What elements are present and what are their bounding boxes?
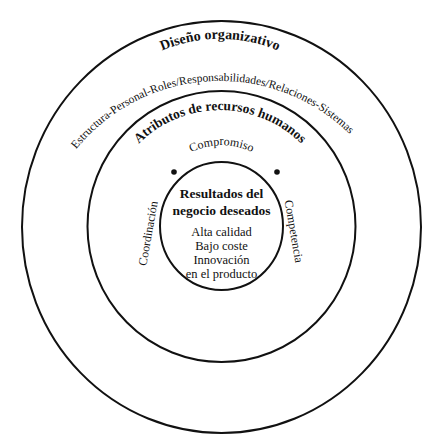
concentric-circles-diagram: Diseño organizativo Estructura-Personal-… [0, 0, 440, 447]
inner-title-line1: Resultados del [180, 186, 264, 201]
attribute-right-competencia: Competencia [282, 199, 307, 264]
inner-item: Bajo coste [195, 239, 248, 253]
outer-ring-title: Diseño organizativo [158, 27, 282, 53]
attribute-left-coordinacion: Coordinación [135, 200, 160, 267]
dot-left [171, 169, 177, 175]
attribute-top-compromiso: Compromiso [187, 134, 256, 155]
inner-item: Innovación [193, 253, 250, 267]
inner-title-line2: negocio deseados [173, 203, 271, 218]
dot-right [274, 169, 280, 175]
inner-item: en el producto [186, 267, 258, 281]
inner-item: Alta calidad [191, 225, 252, 239]
